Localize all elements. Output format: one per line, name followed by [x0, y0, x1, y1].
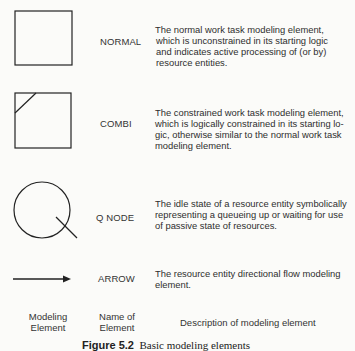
column-header-name-of-element: Name of Element [94, 311, 140, 333]
square-with-corner-slash-icon [15, 93, 71, 148]
description-line: representing a queueing up or waiting fo… [155, 209, 351, 220]
description-line: and indicates active processing of (or b… [155, 46, 351, 57]
figure-number: Figure 5.2 [82, 339, 134, 351]
column-header-modeling-element: Modeling Element [22, 311, 74, 333]
description-line: The normal work task modeling element, [155, 24, 351, 35]
element-name-normal: NORMAL [100, 36, 141, 47]
description-line: which is logically constrained in its st… [155, 118, 351, 129]
description-line: of passive state of resources. [155, 220, 351, 231]
figure-title: Basic modeling elements [139, 339, 250, 351]
description-line: which is unconstrained in its starting l… [155, 35, 351, 46]
column-header-line: Name of [94, 311, 140, 322]
element-name-combi: COMBI [100, 118, 132, 129]
circle-with-tail-icon [14, 182, 77, 238]
element-description-qnode: The idle state of a resource entity symb… [155, 198, 351, 231]
description-line: element. [155, 279, 351, 290]
element-description-combi: The constrained work task modeling eleme… [155, 107, 351, 151]
column-header-description: Description of modeling element [180, 317, 340, 328]
description-line: modeling element. [155, 140, 351, 151]
arrow-right-icon [13, 276, 71, 283]
description-line: The idle state of a resource entity symb… [155, 198, 351, 209]
element-name-qnode: Q NODE [96, 212, 134, 223]
figure-caption: Figure 5.2 Basic modeling elements [82, 339, 250, 351]
element-description-normal: The normal work task modeling element, w… [155, 24, 351, 68]
element-name-arrow: ARROW [98, 273, 135, 284]
column-header-line: Element [22, 322, 74, 333]
description-line: The resource entity directional flow mod… [155, 268, 351, 279]
description-line: The constrained work task modeling eleme… [155, 107, 351, 118]
column-header-line: Modeling [22, 311, 74, 322]
description-line: resource entities. [155, 57, 351, 68]
square-icon [15, 11, 72, 65]
element-description-arrow: The resource entity directional flow mod… [155, 268, 351, 290]
column-header-line: Element [94, 322, 140, 333]
description-line: gic, otherwise similar to the normal wor… [155, 129, 351, 140]
